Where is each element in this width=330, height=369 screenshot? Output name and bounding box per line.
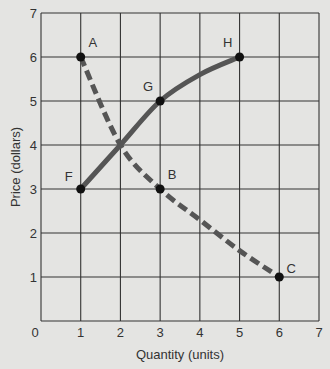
y-axis-label: Price (dollars) bbox=[8, 127, 23, 207]
y-tick-label: 1 bbox=[30, 270, 37, 285]
x-tick-label: 4 bbox=[196, 325, 203, 340]
chart: 012345671234567 ABCFGH Quantity (units) … bbox=[0, 0, 330, 369]
x-tick-label: 3 bbox=[157, 325, 164, 340]
point-label-h: H bbox=[223, 35, 232, 50]
point-f bbox=[76, 185, 85, 194]
point-g bbox=[156, 97, 165, 106]
x-tick-label: 7 bbox=[315, 325, 322, 340]
y-tick-label: 2 bbox=[30, 226, 37, 241]
point-label-b: B bbox=[168, 167, 177, 182]
y-tick-label: 7 bbox=[30, 6, 37, 21]
point-b bbox=[156, 185, 165, 194]
x-tick-label: 1 bbox=[77, 325, 84, 340]
curves bbox=[81, 57, 280, 277]
point-label-a: A bbox=[88, 35, 97, 50]
y-tick-label: 5 bbox=[30, 94, 37, 109]
point-label-g: G bbox=[143, 79, 153, 94]
x-tick-label: 2 bbox=[117, 325, 124, 340]
x-tick-label: 6 bbox=[276, 325, 283, 340]
x-tick-label: 5 bbox=[236, 325, 243, 340]
point-label-c: C bbox=[287, 261, 296, 276]
chart-svg: 012345671234567 ABCFGH Quantity (units) … bbox=[0, 0, 330, 369]
x-axis-label: Quantity (units) bbox=[136, 347, 224, 362]
point-h bbox=[235, 53, 244, 62]
dashed-curve-abc bbox=[81, 57, 280, 277]
y-tick-label: 4 bbox=[30, 138, 37, 153]
point-label-f: F bbox=[65, 169, 73, 184]
point-c bbox=[275, 273, 284, 282]
point-a bbox=[76, 53, 85, 62]
x-tick-label: 0 bbox=[31, 325, 38, 340]
y-tick-label: 6 bbox=[30, 50, 37, 65]
y-tick-label: 3 bbox=[30, 182, 37, 197]
points: ABCFGH bbox=[65, 35, 296, 282]
